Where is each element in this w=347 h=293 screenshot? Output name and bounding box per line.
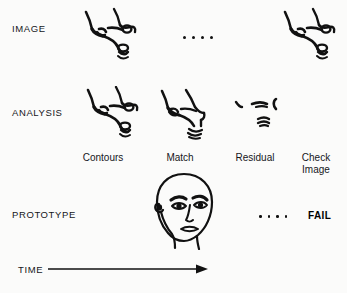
ellipsis-dot (192, 36, 195, 39)
face-profile-sketch-first (78, 6, 142, 64)
time-axis-arrow (46, 258, 211, 282)
ellipsis-dot (201, 36, 204, 39)
match-profile-sketch (155, 88, 215, 146)
row-label-image: IMAGE (12, 23, 46, 34)
caption-contours: Contours (58, 152, 148, 164)
residual-fragments-sketch (232, 92, 286, 142)
caption-check-image-line2: Image (290, 164, 342, 176)
ellipsis-dot (285, 215, 288, 218)
caption-contours-line1: Contours (58, 152, 148, 164)
row-label-analysis: ANALYSIS (12, 107, 63, 118)
ellipsis-dot (276, 215, 279, 218)
figure-canvas: IMAGE ANALYSIS PROTOTYPE (0, 0, 347, 293)
caption-match-line1: Match (140, 152, 220, 164)
result-status-fail: FAIL (308, 210, 331, 221)
ellipsis-dot (259, 215, 262, 218)
caption-residual: Residual (215, 152, 295, 164)
caption-check-image-line1: Check (290, 152, 342, 164)
caption-check-image: Check Image (290, 152, 342, 175)
ellipsis-dot (268, 215, 271, 218)
caption-residual-line1: Residual (215, 152, 295, 164)
face-profile-sketch-last (277, 6, 341, 64)
image-row-ellipsis (183, 36, 213, 39)
frontal-face-prototype (148, 172, 220, 250)
ellipsis-dot (183, 36, 186, 39)
caption-match: Match (140, 152, 220, 164)
row-label-prototype: PROTOTYPE (12, 209, 76, 220)
prototype-row-ellipsis (259, 215, 287, 218)
time-axis-label: TIME (18, 264, 43, 275)
contours-profile-sketch (80, 86, 142, 144)
ellipsis-dot (210, 36, 213, 39)
